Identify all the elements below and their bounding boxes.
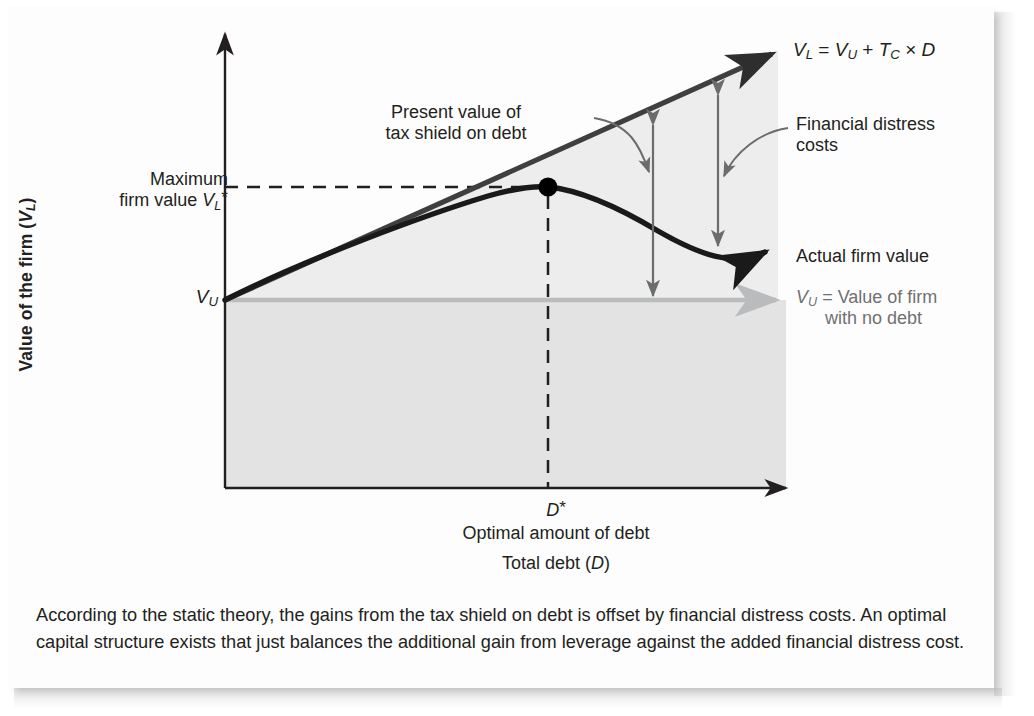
figure-area: Value of the firm (VL) Maximumfirm value… [8, 6, 994, 688]
shaded-region-lower-band [225, 300, 786, 488]
annotation-actual-firm-value: Actual firm value [796, 246, 929, 267]
maximum-firm-value-point [539, 178, 558, 197]
scan-shadow-right [994, 12, 1016, 696]
x-axis-tick-caption-optimal-amount-of-debt: Optimal amount of debt [406, 523, 706, 544]
legend-vu-value-of-firm-no-debt: VU = Value of firmwith no debt [796, 287, 996, 329]
x-axis-tick-label-d-star: D* [506, 500, 606, 521]
figure-caption: According to the static theory, the gain… [36, 602, 966, 655]
annotation-financial-distress-costs: Financial distress costs [796, 114, 996, 156]
scan-shadow-bottom [14, 688, 1002, 708]
annotation-present-value-tax-shield: Present value of tax shield on debt [306, 102, 606, 144]
y-axis-label-vu: VU [128, 286, 218, 308]
annotation-vl-equation: VL = VU + TC × D [793, 39, 935, 61]
x-axis-title: Total debt (D) [406, 553, 706, 574]
y-axis-title-variable: V [16, 211, 36, 223]
y-axis-tick-label-maximum-firm-value: Maximumfirm value VL* [0, 169, 228, 211]
y-axis-title: Value of the firm (VL) [16, 115, 37, 455]
figure-page: Value of the firm (VL) Maximumfirm value… [0, 0, 1034, 716]
